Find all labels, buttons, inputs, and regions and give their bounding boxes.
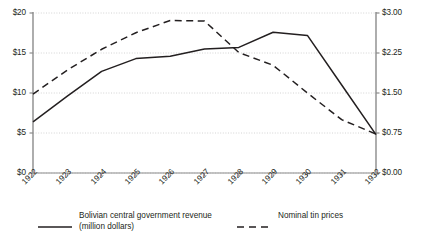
tick-marks — [30, 13, 380, 176]
chart-legend: Bolivian central government revenue (mil… — [0, 206, 421, 236]
y-left-tick-label: $10 — [0, 88, 26, 97]
legend-swatch-revenue — [38, 215, 72, 233]
series-line-revenue — [33, 32, 376, 134]
legend-label-revenue-line2: (million dollars) — [79, 221, 212, 232]
legend-label-tin-prices: Nominal tin prices — [278, 210, 343, 221]
data-series-layer — [33, 20, 376, 134]
legend-label-tin-prices-line1: Nominal tin prices — [278, 210, 343, 221]
y-right-tick-label: $2.25 — [382, 48, 416, 57]
legend-label-revenue: Bolivian central government revenue (mil… — [79, 210, 212, 232]
gridlines — [33, 13, 376, 173]
y-right-tick-label: $3.00 — [382, 8, 416, 17]
legend-label-revenue-line1: Bolivian central government revenue — [79, 210, 212, 221]
chart-plot-area — [0, 0, 421, 236]
y-left-tick-label: $0 — [0, 168, 26, 177]
y-left-tick-label: $15 — [0, 48, 26, 57]
legend-swatch-tin-prices — [237, 215, 271, 233]
y-left-tick-label: $20 — [0, 8, 26, 17]
chart-figure: $0$5$10$15$20 $0.00$0.75$1.50$2.25$3.00 … — [0, 0, 421, 236]
series-line-tin-prices — [33, 20, 376, 134]
y-left-tick-label: $5 — [0, 128, 26, 137]
y-right-tick-label: $1.50 — [382, 88, 416, 97]
y-right-tick-label: $0.75 — [382, 128, 416, 137]
axis-lines — [33, 12, 376, 173]
y-right-tick-label: $0.00 — [382, 168, 416, 177]
